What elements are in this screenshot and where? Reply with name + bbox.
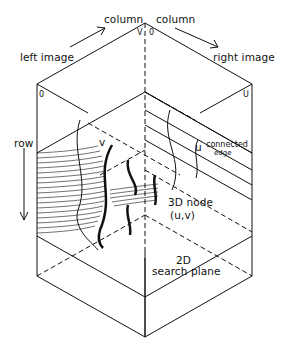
- connected-label: connected: [206, 141, 248, 149]
- zero-left-label: 0: [39, 91, 44, 99]
- search-plane-label: search plane: [152, 266, 221, 277]
- zero-top-label: 0: [149, 29, 154, 37]
- column-right-label: column: [156, 14, 195, 25]
- column-left-label: column: [104, 14, 143, 25]
- v-top-label: V: [137, 29, 142, 37]
- u-inner-label: u: [195, 142, 202, 153]
- plane-2d-label: 2D: [176, 255, 191, 266]
- node-label: 3D node: [168, 197, 213, 208]
- v-inner-label: v: [99, 137, 105, 148]
- u-right-label: U: [243, 91, 249, 99]
- right-image-label: right image: [213, 52, 275, 63]
- row-label: row: [14, 138, 33, 149]
- node-coords-label: (u,v): [170, 210, 195, 221]
- left-image-label: left image: [20, 52, 74, 63]
- edge-label: edge: [214, 150, 232, 157]
